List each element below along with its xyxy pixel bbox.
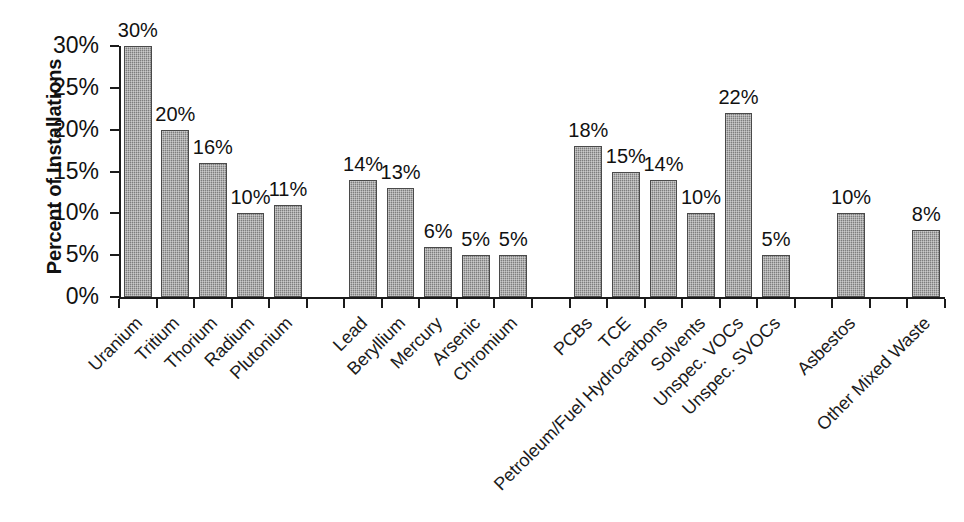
bar[interactable] xyxy=(912,230,940,297)
y-axis-tick: 0% xyxy=(110,296,119,298)
x-axis-tick xyxy=(944,299,946,308)
x-axis-tick xyxy=(456,299,458,308)
bar-value-label: 18% xyxy=(558,119,618,142)
bar[interactable] xyxy=(687,213,715,297)
y-axis-tick-label: 0% xyxy=(27,283,99,310)
bar[interactable] xyxy=(274,205,302,297)
bar[interactable] xyxy=(424,247,452,297)
x-axis-tick xyxy=(869,299,871,308)
bar-value-label: 20% xyxy=(145,103,205,126)
bar-value-label: 13% xyxy=(371,161,431,184)
bar-value-label: 16% xyxy=(183,136,243,159)
y-axis-line xyxy=(119,46,121,299)
y-axis-tick: 5% xyxy=(110,254,119,256)
x-axis-tick xyxy=(606,299,608,308)
bar[interactable] xyxy=(837,213,865,297)
x-axis-tick xyxy=(306,299,308,308)
x-axis-tick xyxy=(381,299,383,308)
x-axis-tick xyxy=(343,299,345,308)
bar[interactable] xyxy=(199,163,227,297)
bar-value-label: 30% xyxy=(108,19,168,42)
bar[interactable] xyxy=(762,255,790,297)
plot-area: 0%5%10%15%20%25%30% 30%20%16%10%11%14%13… xyxy=(119,46,945,299)
y-axis-tick: 25% xyxy=(110,87,119,89)
y-axis-tick: 30% xyxy=(110,45,119,47)
y-axis-tick: 20% xyxy=(110,129,119,131)
x-axis-tick xyxy=(644,299,646,308)
x-axis-tick xyxy=(794,299,796,308)
x-axis-tick xyxy=(268,299,270,308)
y-axis-tick: 10% xyxy=(110,212,119,214)
bar-value-label: 22% xyxy=(709,86,769,109)
x-axis-tick xyxy=(681,299,683,308)
x-axis-tick xyxy=(831,299,833,308)
x-axis-tick xyxy=(418,299,420,308)
bar[interactable] xyxy=(349,180,377,297)
x-axis-label: Asbestos xyxy=(793,313,860,380)
x-axis-tick xyxy=(231,299,233,308)
x-axis-tick xyxy=(193,299,195,308)
bar-value-label: 5% xyxy=(483,228,543,251)
bar-value-label: 8% xyxy=(896,203,956,226)
y-axis-tick-label: 15% xyxy=(27,158,99,185)
bar[interactable] xyxy=(725,113,753,297)
bar-value-label: 10% xyxy=(821,186,881,209)
x-axis-tick xyxy=(719,299,721,308)
bar[interactable] xyxy=(462,255,490,297)
x-axis-tick xyxy=(493,299,495,308)
y-axis-tick: 15% xyxy=(110,171,119,173)
x-axis-label: PCBs xyxy=(550,313,597,360)
bar[interactable] xyxy=(612,172,640,298)
y-axis-tick-label: 10% xyxy=(27,199,99,226)
bar-value-label: 11% xyxy=(258,178,318,201)
y-axis-tick-label: 30% xyxy=(27,32,99,59)
x-axis-tick xyxy=(118,299,120,308)
x-axis-tick xyxy=(156,299,158,308)
bar-value-label: 14% xyxy=(633,153,693,176)
bar[interactable] xyxy=(499,255,527,297)
bar[interactable] xyxy=(124,46,152,297)
y-axis-tick-label: 25% xyxy=(27,74,99,101)
bar-value-label: 5% xyxy=(746,228,806,251)
x-axis-tick xyxy=(756,299,758,308)
x-axis-tick xyxy=(531,299,533,308)
bar[interactable] xyxy=(574,146,602,297)
y-axis-tick-label: 20% xyxy=(27,116,99,143)
y-axis-tick-label: 5% xyxy=(27,241,99,268)
bar[interactable] xyxy=(237,213,265,297)
bar-chart: Percent of Installations 0%5%10%15%20%25… xyxy=(0,0,964,522)
x-axis-tick xyxy=(906,299,908,308)
x-axis-tick xyxy=(569,299,571,308)
bar-value-label: 10% xyxy=(671,186,731,209)
